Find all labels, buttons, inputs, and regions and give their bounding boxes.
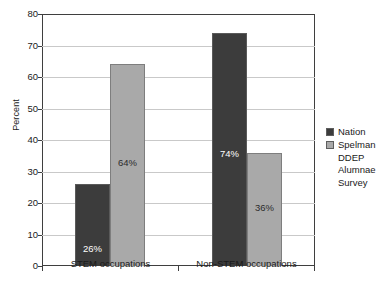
ytick-label-80: 80 xyxy=(14,8,38,19)
plot-area: 80 70 60 50 40 30 20 10 0 26% 64% xyxy=(42,14,315,266)
bar-nonstem-nation[interactable]: 74% xyxy=(212,33,247,266)
ytick-label-0: 0 xyxy=(14,260,38,271)
x-category-label-stem: STEM occupations xyxy=(42,258,179,269)
legend-item-spelman[interactable]: Spelman DDEP Alumnae Survey xyxy=(326,139,388,189)
ytick-label-30: 30 xyxy=(14,166,38,177)
ytick-label-20: 20 xyxy=(14,197,38,208)
ytick-label-40: 40 xyxy=(14,134,38,145)
legend-item-nation[interactable]: Nation xyxy=(326,126,388,138)
bar-label-nonstem-nation: 74% xyxy=(213,148,246,159)
bar-label-stem-spelman: 64% xyxy=(111,157,144,168)
legend: Nation Spelman DDEP Alumnae Survey xyxy=(326,126,388,190)
bar-label-stem-nation: 26% xyxy=(76,243,109,254)
ytick-label-60: 60 xyxy=(14,71,38,82)
legend-swatch-nation-icon xyxy=(326,128,334,136)
legend-label-nation: Nation xyxy=(338,126,365,138)
ytick-label-70: 70 xyxy=(14,40,38,51)
legend-swatch-spelman-icon xyxy=(326,141,334,149)
bars-layer: 26% 64% 74% 36% xyxy=(42,14,315,266)
bar-chart: Percent 80 70 60 50 40 30 20 10 0 xyxy=(0,0,388,296)
bar-label-nonstem-spelman: 36% xyxy=(248,202,281,213)
ytick-label-10: 10 xyxy=(14,229,38,240)
legend-label-spelman: Spelman DDEP Alumnae Survey xyxy=(338,139,376,189)
ytick-label-50: 50 xyxy=(14,103,38,114)
bar-nonstem-spelman[interactable]: 36% xyxy=(247,153,282,266)
bar-stem-nation[interactable]: 26% xyxy=(75,184,110,266)
x-category-label-non-stem: Non-STEM occupations xyxy=(178,258,315,269)
bar-stem-spelman[interactable]: 64% xyxy=(110,64,145,266)
